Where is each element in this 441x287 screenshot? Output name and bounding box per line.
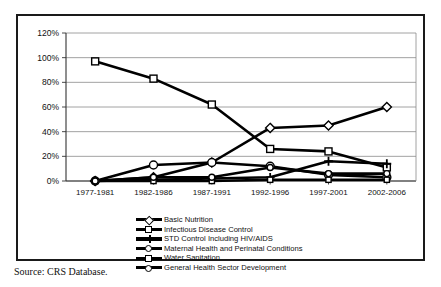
data-point-marker — [150, 161, 158, 169]
x-tick-label: 2002-2006 — [368, 188, 407, 197]
legend-marker-circle-icon — [136, 244, 162, 253]
y-tick-label: 40% — [42, 127, 59, 137]
legend-marker-plus-icon — [136, 234, 162, 243]
data-point-marker — [268, 177, 273, 182]
data-point-marker — [92, 178, 98, 184]
legend-label: Water Sanitation — [164, 253, 220, 263]
data-point-marker — [150, 75, 157, 82]
data-point-marker — [209, 174, 215, 180]
data-point-marker — [151, 174, 157, 180]
legend-item-water-sanitation: Water Sanitation — [136, 253, 416, 263]
legend-item-general-health-sector: General Health Sector Development — [136, 263, 416, 273]
data-point-marker — [267, 145, 274, 152]
legend-marker-diamond-icon — [136, 215, 162, 224]
legend-marker-square-small-icon — [136, 254, 162, 263]
x-tick-label: 1982-1986 — [134, 188, 173, 197]
series-line — [95, 61, 387, 167]
source-note: Source: CRS Database. — [14, 266, 108, 277]
figure-container: 0%20%40%60%80%100%120%1977-19811982-1986… — [0, 0, 441, 287]
data-point-marker — [267, 164, 273, 170]
data-point-marker — [324, 157, 333, 166]
legend-label: Infectious Disease Control — [164, 225, 253, 235]
legend-label: Maternal Health and Perinatal Conditions — [164, 244, 302, 254]
legend-item-std-control: STD Control Including HIV/AIDS — [136, 234, 416, 244]
x-tick-label: 1977-1981 — [76, 188, 115, 197]
data-point-marker — [208, 159, 216, 167]
legend-label: Basic Nutrition — [164, 215, 213, 225]
data-point-marker — [382, 102, 391, 111]
data-point-marker — [384, 177, 389, 182]
x-tick-label: 1997-2001 — [309, 188, 348, 197]
data-point-marker — [208, 101, 215, 108]
y-tick-label: 80% — [42, 77, 59, 87]
chart-legend: Basic Nutrition Infectious Disease Contr… — [136, 215, 416, 273]
legend-item-maternal-health: Maternal Health and Perinatal Conditions — [136, 244, 416, 254]
legend-item-infectious-disease-control: Infectious Disease Control — [136, 225, 416, 235]
legend-marker-square-icon — [136, 225, 162, 234]
x-tick-label: 1987-1991 — [193, 188, 232, 197]
y-tick-label: 100% — [37, 53, 59, 63]
data-point-marker — [384, 171, 390, 177]
data-point-marker — [326, 177, 331, 182]
data-point-marker — [325, 148, 332, 155]
legend-label: STD Control Including HIV/AIDS — [164, 234, 273, 244]
chart-frame: 0%20%40%60%80%100%120%1977-19811982-1986… — [16, 14, 425, 261]
legend-label: General Health Sector Development — [164, 263, 286, 273]
y-tick-label: 0% — [47, 176, 60, 186]
y-tick-label: 60% — [42, 102, 59, 112]
series-line — [95, 180, 387, 181]
data-point-marker — [92, 58, 99, 65]
data-point-marker — [326, 171, 332, 177]
legend-marker-circle-small-icon — [136, 263, 162, 272]
legend-item-basic-nutrition: Basic Nutrition — [136, 215, 416, 225]
y-tick-label: 120% — [37, 28, 59, 38]
y-tick-label: 20% — [42, 151, 59, 161]
data-point-marker — [324, 121, 333, 130]
x-tick-label: 1992-1996 — [251, 188, 290, 197]
